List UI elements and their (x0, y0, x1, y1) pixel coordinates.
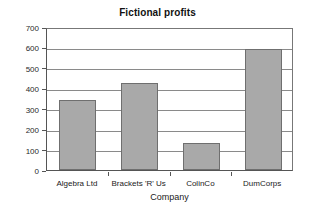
chart-title: Fictional profits (0, 7, 315, 18)
y-tick-label: 700 (0, 24, 39, 33)
bars-group (47, 29, 292, 170)
y-tick-label: 600 (0, 44, 39, 53)
plot-area (46, 28, 293, 171)
x-axis-label: Company (46, 192, 293, 202)
x-tick-label: DumCorps (243, 179, 281, 188)
y-tick-label: 100 (0, 146, 39, 155)
x-tick-label: Algebra Ltd (56, 179, 97, 188)
x-tick-mark (231, 172, 232, 176)
y-tick-label: 0 (0, 167, 39, 176)
y-tick-label: 200 (0, 126, 39, 135)
x-tick-mark (170, 172, 171, 176)
x-tick-label: Brackets 'R' Us (112, 179, 166, 188)
bar (59, 100, 96, 170)
bar-chart-figure: Fictional profits Profit (£ millions) 01… (0, 0, 315, 214)
y-tick-label: 500 (0, 64, 39, 73)
y-tick-label: 300 (0, 105, 39, 114)
x-tick-mark (108, 172, 109, 176)
bar (121, 83, 158, 170)
x-tick-label: ColinCo (186, 179, 214, 188)
bar (245, 49, 282, 170)
bar (183, 143, 220, 170)
y-tick-label: 400 (0, 85, 39, 94)
